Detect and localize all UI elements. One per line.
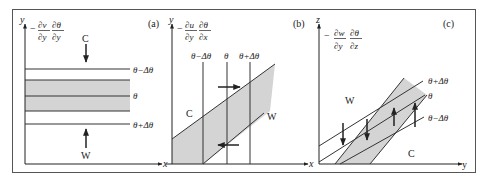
isentrope-label-plus: θ+Δθ (428, 76, 449, 86)
term-num2: ∂θ (199, 20, 208, 30)
term-den2: ∂x (199, 32, 207, 42)
cold-label: C (82, 33, 89, 44)
term-den1: ∂y (185, 32, 193, 42)
isentrope-label-theta: θ (224, 51, 229, 61)
cold-label: C (408, 148, 415, 159)
term-den2: ∂z (350, 41, 358, 51)
term-num1: ∂w (334, 28, 344, 38)
frontogenesis-figure: y x (a) − ∂v ∂y ∂θ ∂y C W θ−Δθ θ θ+Δθ y … (0, 0, 479, 183)
term-den2: ∂y (52, 32, 60, 42)
isentrope-label-theta: θ (133, 91, 138, 101)
isentrope-label-plus: θ+Δθ (133, 120, 154, 130)
panel-tag: (b) (293, 18, 305, 30)
term-den1: ∂y (334, 41, 342, 51)
axis-label-z: z (315, 14, 320, 25)
term-minus: − (177, 23, 183, 34)
isentrope-label-minus: θ−Δθ (428, 113, 449, 123)
term-num2: ∂θ (52, 20, 61, 30)
axis-label-y: y (168, 14, 174, 25)
term-minus: − (324, 30, 330, 41)
cold-label: C (186, 108, 193, 119)
axis-label-x: x (308, 158, 314, 169)
panel-tag: (a) (148, 18, 159, 30)
term-den1: ∂y (38, 32, 46, 42)
term-num1: ∂v (38, 20, 46, 30)
panel-b: y x (b) − ∂u ∂y ∂θ ∂x θ−Δθ θ θ+Δθ C W (166, 14, 314, 169)
term-num1: ∂u (185, 20, 194, 30)
isentrope-label-theta: θ (428, 91, 433, 101)
isentrope-label-minus: θ−Δθ (133, 65, 154, 75)
warm-label: W (81, 150, 91, 161)
isentrope-label-plus: θ+Δθ (239, 51, 260, 61)
warm-label: W (267, 111, 277, 122)
warm-label: W (345, 95, 355, 106)
term-num2: ∂θ (350, 28, 359, 38)
panel-tag: (c) (443, 18, 454, 30)
panel-a: y x (a) − ∂v ∂y ∂θ ∂y C W θ−Δθ θ θ+Δθ (19, 14, 168, 169)
axis-label-y: y (19, 14, 25, 25)
panel-c: z y (c) − ∂w ∂y ∂θ ∂z W C θ+Δθ θ θ−Δθ (315, 14, 467, 170)
term-minus: − (30, 23, 36, 34)
isentrope-label-minus: θ−Δθ (191, 51, 212, 61)
axis-label-y: y (462, 159, 467, 170)
